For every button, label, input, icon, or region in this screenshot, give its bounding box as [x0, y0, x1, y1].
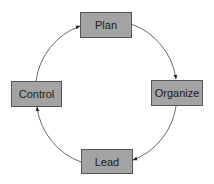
arrow-organize-to-lead	[133, 106, 176, 160]
arrow-lead-to-control	[37, 107, 81, 162]
node-label-plan: Plan	[95, 19, 117, 31]
arrow-control-to-plan	[36, 26, 80, 81]
node-label-organize: Organize	[155, 87, 200, 99]
arrow-plan-to-organize	[131, 24, 176, 79]
node-control: Control	[12, 82, 62, 107]
node-organize: Organize	[152, 81, 203, 106]
node-lead: Lead	[82, 150, 133, 174]
node-label-lead: Lead	[95, 156, 119, 168]
node-label-control: Control	[19, 88, 54, 100]
management-cycle-diagram: Plan Organize Lead Control	[0, 0, 214, 184]
node-plan: Plan	[81, 13, 132, 38]
